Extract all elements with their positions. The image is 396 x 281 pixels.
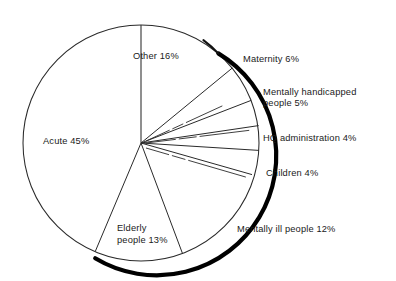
slice-label-maternity: Maternity 6%	[243, 54, 299, 64]
slice-label-handicapped-line1: Mentally handicapped	[263, 87, 356, 97]
slice-label-elderly-line2: people 13%	[117, 235, 168, 245]
slice-label-hq-administration: HQ administration 4%	[263, 133, 356, 143]
slice-label-elderly-line1: Elderly	[117, 223, 147, 233]
pie-chart: Other 16% Maternity 6% Mentally handicap…	[0, 0, 396, 281]
slice-label-acute: Acute 45%	[43, 136, 89, 146]
slice-label-other: Other 16%	[133, 51, 179, 61]
slice-label-children: Children 4%	[266, 168, 318, 178]
pie-chart-svg: Other 16% Maternity 6% Mentally handicap…	[0, 0, 396, 281]
slice-label-mentally-ill: Mentally ill people 12%	[237, 224, 336, 234]
slice-label-handicapped-line2: people 5%	[263, 98, 308, 108]
